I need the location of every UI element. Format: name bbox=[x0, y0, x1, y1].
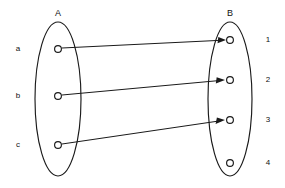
mapping-arrow-c-to-3 bbox=[62, 118, 225, 145]
set-mapping-diagram: A B a b c 1 2 3 4 bbox=[0, 0, 285, 188]
label-element-c: c bbox=[16, 140, 20, 149]
node-a[interactable] bbox=[55, 46, 62, 53]
mapping-canvas: A B a b c 1 2 3 4 bbox=[0, 0, 285, 188]
label-element-b: b bbox=[16, 91, 21, 100]
mapping-line bbox=[62, 80, 221, 95]
arrowhead-icon bbox=[218, 37, 227, 43]
label-element-1: 1 bbox=[266, 35, 271, 44]
mapping-arrow-a-to-1 bbox=[62, 37, 226, 48]
node-2[interactable] bbox=[227, 77, 234, 84]
node-3[interactable] bbox=[227, 117, 234, 124]
mapping-arrow-b-to-2 bbox=[62, 77, 225, 95]
label-element-4: 4 bbox=[266, 158, 271, 167]
label-element-3: 3 bbox=[266, 115, 271, 124]
label-element-2: 2 bbox=[266, 75, 271, 84]
arrowhead-icon bbox=[216, 118, 225, 124]
mapping-line bbox=[62, 121, 221, 144]
set-b-ellipse bbox=[208, 22, 252, 176]
arrowhead-icon bbox=[216, 77, 225, 83]
mapping-line bbox=[62, 40, 223, 48]
set-b-title: B bbox=[227, 8, 233, 18]
node-4[interactable] bbox=[227, 160, 234, 167]
node-1[interactable] bbox=[227, 37, 234, 44]
label-element-a: a bbox=[16, 44, 21, 53]
node-b[interactable] bbox=[55, 93, 62, 100]
node-c[interactable] bbox=[55, 142, 62, 149]
set-a-title: A bbox=[55, 8, 61, 18]
